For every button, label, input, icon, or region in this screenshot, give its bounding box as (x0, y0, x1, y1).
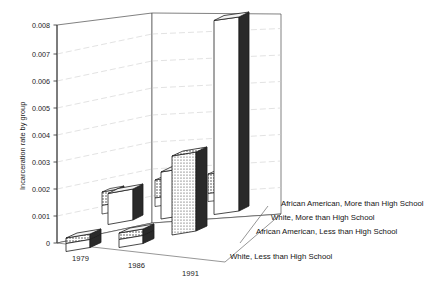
legend-entry-3: White, Less than High School (230, 252, 333, 261)
legend-entry-1: White, More than High School (271, 213, 375, 222)
bar-1991-aa-less (214, 12, 249, 215)
y-tick-label: 0.001 (32, 212, 50, 221)
y-tick-label: 0.003 (32, 158, 50, 167)
y-tick-label: 0.004 (32, 131, 50, 140)
y-tick-label: 0.006 (32, 77, 50, 86)
x-tick-label: 1979 (72, 254, 89, 263)
bar-chart-3d: 0 0.001 0.002 0.003 0.004 0.005 0.006 0.… (0, 0, 448, 288)
y-tick-label: 0.002 (32, 185, 50, 194)
y-tick-label: 0 (46, 239, 50, 248)
chart-container: 0 0.001 0.002 0.003 0.004 0.005 0.006 0.… (0, 0, 448, 288)
bar-1991-white-less (172, 147, 207, 235)
y-tick-label: 0.008 (32, 21, 50, 30)
x-tick-label: 1986 (128, 261, 145, 270)
y-tick-label: 0.007 (32, 50, 50, 59)
y-tick-label: 0.005 (32, 104, 50, 113)
x-axis-labels: 1979 1986 1991 (72, 254, 199, 278)
y-tick-labels: 0 0.001 0.002 0.003 0.004 0.005 0.006 0.… (32, 21, 50, 248)
y-axis (54, 25, 58, 243)
x-tick-label: 1991 (182, 269, 199, 278)
y-axis-title: Incarceration rate by group (18, 102, 27, 190)
legend-entry-0: African American, More than High School (281, 199, 424, 208)
legend-entry-2: African American, Less than High School (256, 227, 398, 236)
